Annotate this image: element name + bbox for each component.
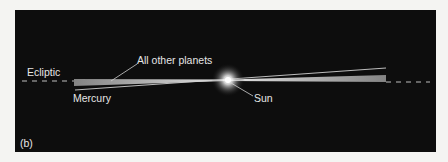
planets-plane-right bbox=[228, 75, 386, 82]
mercury-label: Mercury bbox=[73, 93, 111, 104]
sun-label: Sun bbox=[254, 93, 273, 104]
panel-label: (b) bbox=[20, 138, 33, 149]
figure: Ecliptic All other planets Mercury Sun (… bbox=[0, 0, 448, 162]
orbital-planes-diagram bbox=[0, 0, 448, 162]
all-other-planets-label: All other planets bbox=[137, 55, 212, 66]
ecliptic-label: Ecliptic bbox=[27, 67, 60, 78]
leader-all-other-planets bbox=[111, 64, 137, 81]
